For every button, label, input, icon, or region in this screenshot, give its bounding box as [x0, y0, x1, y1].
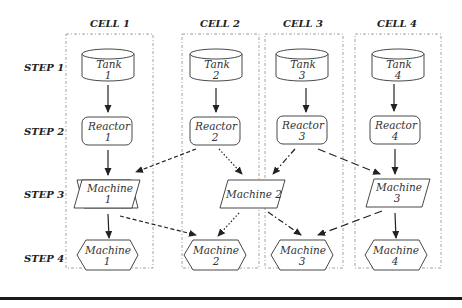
svg-text:Machine 2: Machine 2 — [225, 188, 282, 200]
tank-3-node: Tank 3 — [276, 49, 328, 81]
arrow-machine2-machine2 — [218, 213, 239, 236]
process-flow-diagram: CELL 1 CELL 2 CELL 3 CELL 4 STEP 1 STEP … — [0, 0, 462, 308]
svg-text:2: 2 — [211, 131, 219, 143]
tank-2-node: Tank 2 — [190, 49, 242, 81]
arrow-machine1-machine1 — [108, 214, 109, 238]
cell-1-header: CELL 1 — [90, 18, 130, 29]
arrow-reactor3-machine3 — [318, 149, 380, 174]
arrow-reactor2-machine2 — [219, 149, 242, 174]
tank-1-node: Tank 1 — [82, 49, 134, 81]
cell-4-header: CELL 4 — [377, 18, 417, 29]
reactor-3-node: Reactor 3 — [277, 116, 327, 144]
svg-text:1: 1 — [104, 255, 111, 267]
tank-4-node: Tank 4 — [372, 49, 424, 81]
reactor-2-node: Reactor 2 — [190, 117, 240, 145]
svg-text:4: 4 — [394, 69, 402, 81]
svg-text:3: 3 — [299, 69, 306, 81]
machine-4-step4-node: Machine 4 — [365, 240, 427, 270]
svg-text:4: 4 — [391, 130, 399, 142]
arrow-reactor3-machine2 — [273, 149, 295, 174]
arrow-machine3-machine4 — [395, 213, 396, 238]
step-4-label: STEP 4 — [24, 253, 64, 264]
machine-3-step3-node: Machine 3 — [366, 179, 430, 207]
bottom-rule — [0, 297, 462, 300]
machine-3-step4-node: Machine 3 — [271, 240, 333, 270]
svg-text:1: 1 — [105, 193, 112, 205]
svg-text:3: 3 — [394, 192, 401, 204]
cell-3-header: CELL 3 — [283, 18, 323, 29]
arrow-machine2-machine3 — [268, 212, 301, 235]
arrow-reactor2-machine1 — [136, 149, 196, 172]
step-1-label: STEP 1 — [24, 62, 64, 73]
arrow-machine3-machine3 — [318, 211, 382, 235]
step-2-label: STEP 2 — [24, 126, 64, 137]
machine-2-step3-node: Machine 2 — [220, 180, 285, 208]
machine-2-step4-node: Machine 2 — [184, 240, 246, 270]
step-3-label: STEP 3 — [24, 189, 64, 200]
reactor-1-node: Reactor 1 — [82, 117, 132, 145]
machine-1-step4-node: Machine 1 — [77, 240, 138, 270]
arrow-machine1-machine2 — [120, 216, 196, 235]
cell-2-header: CELL 2 — [200, 18, 240, 29]
machine-1-step3-node: Machine 1 — [74, 180, 140, 208]
svg-text:2: 2 — [212, 255, 220, 267]
reactor-4-node: Reactor 4 — [370, 116, 420, 144]
svg-text:2: 2 — [212, 69, 220, 81]
svg-text:1: 1 — [105, 131, 112, 143]
svg-text:4: 4 — [391, 255, 399, 267]
svg-text:1: 1 — [105, 69, 112, 81]
svg-text:3: 3 — [299, 255, 306, 267]
svg-text:3: 3 — [299, 130, 306, 142]
